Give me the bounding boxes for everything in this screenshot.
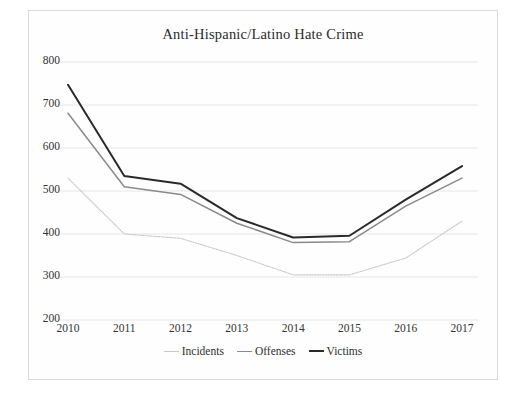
legend-entry-victims[interactable]: Victims [309, 345, 363, 357]
y-tick-label: 600 [26, 140, 60, 152]
y-tick-label: 300 [26, 269, 60, 281]
gridlines [54, 62, 478, 320]
x-tick-label: 2010 [46, 322, 90, 334]
series-line-offenses [68, 113, 462, 242]
legend-label: Offenses [255, 345, 296, 357]
y-tick-label: 700 [26, 97, 60, 109]
plot-area [0, 0, 526, 395]
series-line-victims [68, 85, 462, 238]
legend-line-swatch-icon [237, 351, 252, 352]
x-tick-label: 2015 [327, 322, 371, 334]
chart-legend: IncidentsOffensesVictims [0, 345, 526, 357]
chart-figure: Anti-Hispanic/Latino Hate Crime 80070060… [0, 0, 526, 395]
legend-label: Incidents [182, 345, 224, 357]
legend-entry-incidents[interactable]: Incidents [164, 345, 224, 357]
x-tick-label: 2017 [440, 322, 484, 334]
legend-line-swatch-icon [309, 350, 324, 352]
y-tick-label: 400 [26, 226, 60, 238]
legend-line-swatch-icon [164, 351, 179, 352]
x-tick-label: 2016 [384, 322, 428, 334]
y-tick-label: 800 [26, 54, 60, 66]
x-tick-label: 2013 [215, 322, 259, 334]
legend-entry-offenses[interactable]: Offenses [237, 345, 296, 357]
series-line-incidents [68, 178, 462, 275]
series-lines [68, 85, 462, 275]
x-tick-label: 2014 [271, 322, 315, 334]
y-tick-label: 500 [26, 183, 60, 195]
x-tick-label: 2011 [102, 322, 146, 334]
legend-label: Victims [327, 345, 363, 357]
x-tick-label: 2012 [159, 322, 203, 334]
